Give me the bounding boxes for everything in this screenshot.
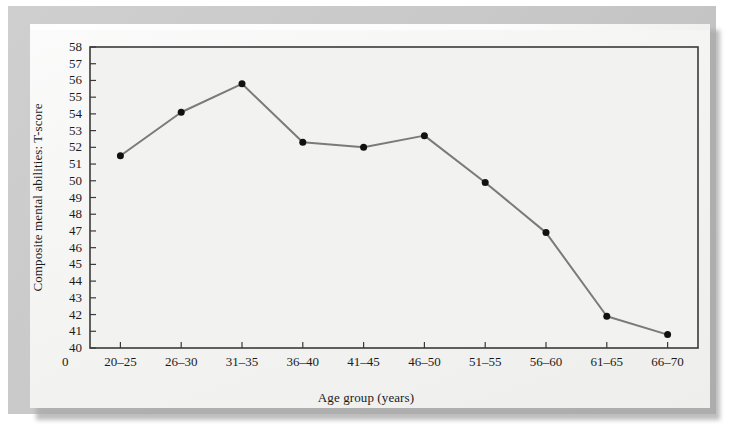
y-tick-label: 40 [56,340,82,356]
x-tick-label: 31–35 [226,354,259,370]
y-tick-label: 57 [56,56,82,72]
x-tick-label: 26–30 [165,354,198,370]
data-point-marker [178,109,185,116]
data-point-marker [543,229,550,236]
y-axis-title: Composite mental abilities: T-score [30,103,46,291]
y-tick-label: 47 [56,223,82,239]
y-tick-label: 56 [56,72,82,88]
data-point-marker [603,313,610,320]
y-tick-label: 43 [56,290,82,306]
plot-area-background [90,47,698,348]
y-tick-label: 48 [56,206,82,222]
y-tick-label: 54 [56,106,82,122]
data-point-marker [664,331,671,338]
x-tick-label: 66–70 [651,354,684,370]
data-point-marker [421,132,428,139]
x-tick-label: 41–45 [347,354,380,370]
x-axis-title: Age group (years) [0,390,732,406]
x-tick-label: 56–60 [530,354,563,370]
axis-origin-label: 0 [62,354,69,370]
y-tick-label: 51 [56,156,82,172]
data-point-marker [299,139,306,146]
y-tick-label: 42 [56,307,82,323]
y-tick-label: 53 [56,123,82,139]
x-tick-label: 36–40 [287,354,320,370]
y-tick-label: 52 [56,139,82,155]
data-point-marker [117,152,124,159]
y-tick-label: 44 [56,273,82,289]
y-tick-label: 49 [56,190,82,206]
y-tick-label: 45 [56,256,82,272]
figure-root: Composite mental abilities: T-score Age … [0,0,732,428]
data-point-marker [360,144,367,151]
y-tick-label: 55 [56,89,82,105]
x-tick-label: 46–50 [408,354,441,370]
x-tick-label: 20–25 [104,354,137,370]
y-tick-label: 58 [56,39,82,55]
data-point-marker [482,179,489,186]
y-tick-label: 41 [56,323,82,339]
y-tick-label: 50 [56,173,82,189]
y-tick-label: 46 [56,240,82,256]
x-tick-label: 51–55 [469,354,502,370]
data-point-marker [239,80,246,87]
x-tick-label: 61–65 [591,354,624,370]
